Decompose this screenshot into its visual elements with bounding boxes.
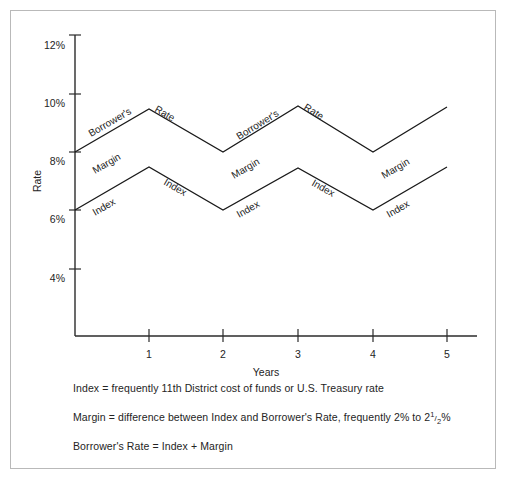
series-label-margin-2: Margin: [229, 156, 261, 181]
series-label-borrowers-rate-1b: Rate: [153, 103, 177, 123]
y-tick-label-8: 8%: [50, 155, 65, 167]
series-label-borrowers-rate-2a: Borrower's: [234, 108, 280, 142]
x-tick-label-1: 1: [146, 348, 152, 360]
series-label-margin-3: Margin: [379, 156, 411, 181]
fraction-denominator: 2: [437, 416, 441, 425]
x-tick-label-2: 2: [220, 348, 226, 360]
figure-frame: 12% 10% 8% 6% 4% Rate 1 2 3: [10, 10, 496, 469]
y-tick-label-6: 6%: [50, 213, 65, 225]
y-tick-label-4: 4%: [50, 272, 65, 284]
x-tick-label-3: 3: [295, 348, 301, 360]
x-tick-label-4: 4: [370, 348, 376, 360]
series-label-index-2: Index: [162, 176, 189, 198]
screenshot-root: 12% 10% 8% 6% 4% Rate 1 2 3: [0, 0, 508, 484]
definition-margin: Margin = difference between Index and Bo…: [73, 411, 483, 424]
series-label-borrowers-rate-2b: Rate: [302, 101, 326, 122]
x-tick-label-5: 5: [444, 348, 450, 360]
fraction-numerator: 1: [430, 410, 434, 419]
y-tick-label-10: 10%: [44, 97, 65, 109]
definition-margin-suffix: %: [441, 411, 450, 423]
y-tick-label-12: 12%: [44, 39, 65, 51]
definition-margin-text: Margin = difference between Index and Bo…: [73, 411, 430, 423]
series-label-margin-1: Margin: [90, 151, 122, 176]
fraction-one-half: 1/2: [430, 415, 441, 423]
series-label-index-4: Index: [310, 177, 337, 199]
definition-borrowers-rate: Borrower's Rate = Index + Margin: [73, 440, 483, 453]
definitions-block: Index = frequently 11th District cost of…: [73, 382, 483, 453]
definition-index: Index = frequently 11th District cost of…: [73, 382, 483, 395]
y-axis-title: Rate: [31, 170, 43, 192]
x-axis-title: Years: [253, 366, 279, 378]
